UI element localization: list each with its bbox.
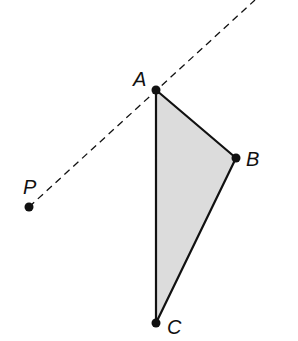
label-a: A (132, 68, 146, 90)
label-p: P (23, 176, 37, 198)
label-b: B (246, 148, 259, 170)
point-a (152, 86, 161, 95)
point-p (25, 203, 34, 212)
point-b (232, 154, 241, 163)
label-c: C (167, 316, 182, 338)
point-c (152, 319, 161, 328)
geometry-diagram: A B C P (0, 0, 298, 341)
triangle-abc (156, 90, 236, 323)
